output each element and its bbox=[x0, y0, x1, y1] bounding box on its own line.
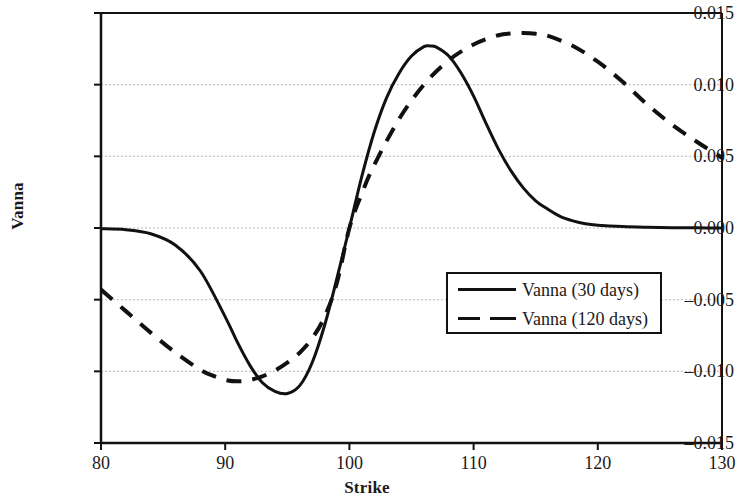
legend-entry-1: Vanna (120 days) bbox=[448, 303, 664, 334]
x-axis-title: Strike bbox=[0, 478, 734, 498]
legend-label-0: Vanna (30 days) bbox=[522, 280, 639, 300]
data-series-group bbox=[101, 33, 722, 394]
x-tick-label: 130 bbox=[682, 454, 740, 472]
x-tick-label: 120 bbox=[558, 454, 638, 472]
y-tick-label: –0.010 bbox=[646, 362, 734, 380]
y-axis-title: Vanna bbox=[8, 166, 28, 246]
legend-key-dashed-icon bbox=[456, 309, 518, 329]
y-tick-label: 0.010 bbox=[646, 76, 734, 94]
x-tick-label: 80 bbox=[61, 454, 141, 472]
legend-label-1: Vanna (120 days) bbox=[522, 309, 648, 329]
x-tick-label: 100 bbox=[309, 454, 389, 472]
y-tick-label: –0.015 bbox=[646, 434, 734, 452]
y-tick-label: 0.000 bbox=[646, 219, 734, 237]
y-tick-label: 0.015 bbox=[646, 4, 734, 22]
x-tick-label: 110 bbox=[434, 454, 514, 472]
legend: Vanna (30 days) Vanna (120 days) bbox=[446, 272, 662, 334]
x-tick-label: 90 bbox=[185, 454, 265, 472]
legend-key-solid-icon bbox=[456, 280, 518, 300]
legend-entry-0: Vanna (30 days) bbox=[448, 274, 664, 305]
y-tick-label: 0.005 bbox=[646, 147, 734, 165]
axis-ticks-group bbox=[94, 13, 722, 450]
series-line-0 bbox=[101, 46, 722, 394]
